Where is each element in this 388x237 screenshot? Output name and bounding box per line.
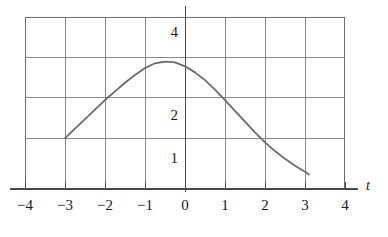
x-tick-label--2: −2 (90, 196, 120, 214)
grid-line-vertical (344, 17, 345, 190)
y-tick-label-1: 1 (152, 150, 178, 166)
x-tick-label-3: 3 (290, 196, 320, 214)
grid-line-vertical (265, 17, 266, 190)
x-axis-tick (65, 182, 66, 189)
y-tick-label-4: 4 (152, 24, 178, 40)
grid-line-vertical (25, 17, 26, 190)
grid-line-vertical (305, 17, 306, 190)
x-tick-label--3: −3 (50, 196, 80, 214)
x-tick-label--1: −1 (130, 196, 160, 214)
grid-line-vertical (145, 17, 146, 190)
x-axis-tick (345, 182, 346, 189)
x-axis-label: t (366, 178, 370, 194)
x-axis-tick (225, 182, 226, 189)
x-axis-tick (305, 182, 306, 189)
x-axis-tick (265, 182, 266, 189)
y-axis-line (185, 6, 186, 192)
grid-line-vertical (225, 17, 226, 190)
graph-figure: −4 −3 −2 −1 0 1 2 3 4 4 2 1 t (0, 0, 388, 237)
x-tick-label-0: 0 (170, 196, 200, 214)
x-axis-tick (145, 182, 146, 189)
grid-line-vertical (105, 17, 106, 190)
x-tick-label--4: −4 (10, 196, 40, 214)
x-tick-label-4: 4 (330, 196, 360, 214)
y-tick-label-2: 2 (152, 107, 178, 123)
grid-line-vertical (65, 17, 66, 190)
x-axis-tick (105, 182, 106, 189)
x-axis-tick (25, 182, 26, 189)
x-tick-label-1: 1 (210, 196, 240, 214)
x-tick-label-2: 2 (250, 196, 280, 214)
